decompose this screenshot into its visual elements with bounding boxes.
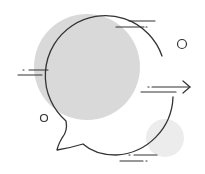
decor-ring-top-right [178, 40, 187, 49]
decor-ring-left [41, 115, 48, 122]
large-gray-blob [34, 14, 140, 120]
speech-bubble-illustration [0, 0, 205, 174]
speed-lines-bottom [120, 155, 157, 161]
arrow-right-icon [141, 81, 190, 93]
